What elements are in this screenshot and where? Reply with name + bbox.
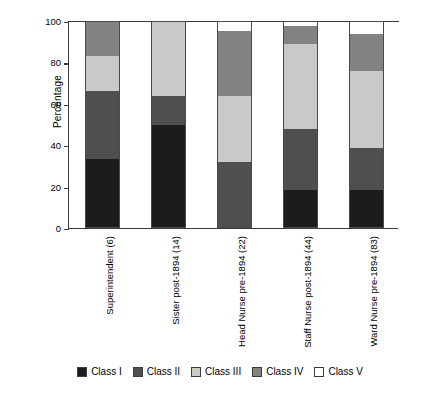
legend-label: Class III [205, 366, 241, 377]
y-tick-label-40: 40 [50, 141, 61, 151]
y-tick-20 [64, 188, 69, 189]
legend-item-class-ii[interactable]: Class II [133, 366, 180, 377]
legend-item-class-i[interactable]: Class I [77, 366, 122, 377]
bar-2[interactable] [151, 21, 186, 228]
legend-swatch-icon [191, 367, 201, 377]
legend: Class IClass IIClass IIIClass IVClass V [0, 366, 440, 377]
x-axis-label-3: Head Nurse pre-1894 (22) [237, 236, 247, 347]
bar-segment-class-iv [217, 31, 252, 95]
bar-segment-class-iv [283, 26, 318, 44]
y-tick-label-0: 0 [56, 224, 61, 234]
bar-1[interactable] [85, 21, 120, 228]
x-axis-label-1: Superintendent (6) [105, 236, 115, 315]
bar-segment-class-ii [151, 96, 186, 125]
bar-segment-class-iii [85, 56, 120, 91]
legend-label: Class II [147, 366, 180, 377]
y-tick-60 [64, 105, 69, 106]
legend-item-class-iii[interactable]: Class III [191, 366, 241, 377]
bar-segment-class-iii [283, 44, 318, 129]
bar-segment-class-iii [151, 21, 186, 96]
legend-item-class-v[interactable]: Class V [314, 366, 362, 377]
y-tick-label-20: 20 [50, 183, 61, 193]
bar-segment-class-v [283, 21, 318, 26]
plot-area: 020406080100 [68, 22, 398, 229]
y-tick-label-80: 80 [50, 59, 61, 69]
y-tick-40 [64, 146, 69, 147]
legend-swatch-icon [314, 367, 324, 377]
x-axis-label-5: Ward Nurse pre-1894 (83) [369, 236, 379, 347]
legend-label: Class IV [266, 366, 303, 377]
bar-segment-class-iv [85, 21, 120, 56]
bar-4[interactable] [283, 21, 318, 228]
bar-segment-class-iii [349, 71, 384, 149]
x-axis-label-4: Staff Nurse post-1894 (44) [303, 236, 313, 348]
legend-swatch-icon [252, 367, 262, 377]
bar-segment-class-i [85, 159, 120, 228]
bar-5[interactable] [349, 21, 384, 228]
legend-label: Class V [328, 366, 362, 377]
y-tick-0 [64, 229, 69, 230]
y-tick-label-60: 60 [50, 100, 61, 110]
bar-segment-class-ii [85, 91, 120, 159]
legend-item-class-iv[interactable]: Class IV [252, 366, 303, 377]
bar-segment-class-i [151, 125, 186, 229]
stacked-bar-chart: Percentage 020406080100 Superintendent (… [0, 0, 440, 404]
bar-segment-class-iii [217, 96, 252, 162]
legend-label: Class I [91, 366, 122, 377]
bar-segment-class-v [217, 21, 252, 31]
bar-segment-class-i [283, 190, 318, 228]
legend-swatch-icon [77, 367, 87, 377]
y-tick-label-100: 100 [45, 17, 61, 27]
bar-segment-class-ii [283, 129, 318, 190]
y-tick-100 [64, 22, 69, 23]
bar-segment-class-v [349, 21, 384, 34]
bar-3[interactable] [217, 21, 252, 228]
x-axis-label-2: Sister post-1894 (14) [171, 236, 181, 325]
bar-segment-class-i [349, 190, 384, 228]
bar-segment-class-iv [349, 34, 384, 70]
bar-segment-class-ii [217, 162, 252, 228]
y-tick-80 [64, 63, 69, 64]
bar-segment-class-ii [349, 148, 384, 189]
legend-swatch-icon [133, 367, 143, 377]
